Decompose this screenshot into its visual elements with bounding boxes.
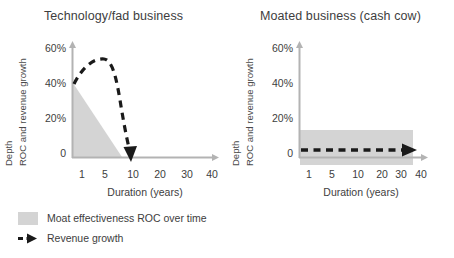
area-moat-effectiveness-right (300, 130, 413, 165)
figure-container: Technology/fad business Depth ROC and re… (0, 0, 454, 258)
chart-panel-moated: Moated business (cash cow) Depth ROC and… (227, 0, 454, 200)
chart-panel-technology: Technology/fad business Depth ROC and re… (0, 0, 227, 200)
y-tick-label-0-right: 0 (287, 147, 293, 159)
x-tick-label-30-right: 30 (395, 168, 407, 180)
legend-label-revenue: Revenue growth (47, 232, 123, 244)
x-tick-label-30-left: 30 (181, 168, 193, 180)
x-tick-label-20-right: 20 (376, 168, 388, 180)
area-moat-effectiveness-left (73, 83, 122, 157)
legend-item-revenue: Revenue growth (18, 228, 438, 248)
arrowhead-revenue-growth-left (124, 146, 138, 162)
legend-dashed-arrow-icon (18, 232, 38, 245)
y-tick-label-40-right: 40% (272, 77, 293, 89)
y-tick-label-20-right: 20% (272, 112, 293, 124)
y-tick-label-20-left: 20% (45, 112, 66, 124)
x-axis-arrowhead-right (421, 154, 428, 161)
plot-area-left: 60% 40% 20% 0 1 5 10 20 30 40 Duration (… (0, 0, 227, 200)
x-tick-label-40-left: 40 (206, 168, 218, 180)
x-tick-label-1-right: 1 (306, 168, 312, 180)
legend: Moat effectiveness ROC over time Revenue… (18, 208, 438, 248)
y-tick-label-60-right: 60% (272, 42, 293, 54)
x-axis-arrowhead-left (212, 154, 219, 161)
legend-item-moat: Moat effectiveness ROC over time (18, 208, 438, 228)
y-axis-arrowhead-right (296, 41, 303, 48)
legend-label-moat: Moat effectiveness ROC over time (47, 212, 207, 224)
y-axis-arrowhead-left (69, 41, 76, 48)
x-axis-label-left: Duration (years) (107, 186, 182, 198)
x-tick-label-10-left: 10 (127, 168, 139, 180)
x-axis-label-right: Duration (years) (323, 186, 398, 198)
y-tick-label-0-left: 0 (60, 147, 66, 159)
x-tick-label-10-right: 10 (352, 168, 364, 180)
y-tick-label-60-left: 60% (45, 42, 66, 54)
x-tick-label-40-right: 40 (415, 168, 427, 180)
x-tick-label-1-left: 1 (79, 168, 85, 180)
x-tick-label-5-left: 5 (102, 168, 108, 180)
y-tick-label-40-left: 40% (45, 77, 66, 89)
x-tick-label-20-left: 20 (154, 168, 166, 180)
x-tick-label-5-right: 5 (329, 168, 335, 180)
legend-swatch-square-icon (18, 212, 38, 225)
plot-area-right: 60% 40% 20% 0 1 5 10 20 30 40 Duration (… (227, 0, 454, 200)
